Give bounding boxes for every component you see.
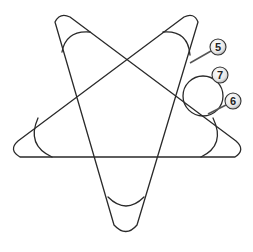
outer-belt-path <box>13 15 240 231</box>
leader-line-5 <box>190 51 211 63</box>
leader-line-6 <box>208 105 226 114</box>
callout-5-label: 5 <box>215 41 221 53</box>
callout-6: 6 <box>225 93 241 109</box>
callout-6-label: 6 <box>230 95 236 107</box>
callout-5: 5 <box>210 39 226 55</box>
callout-7: 7 <box>212 67 228 83</box>
belt-routing-diagram: 5 7 6 <box>0 0 253 252</box>
callout-7-label: 7 <box>217 69 223 81</box>
